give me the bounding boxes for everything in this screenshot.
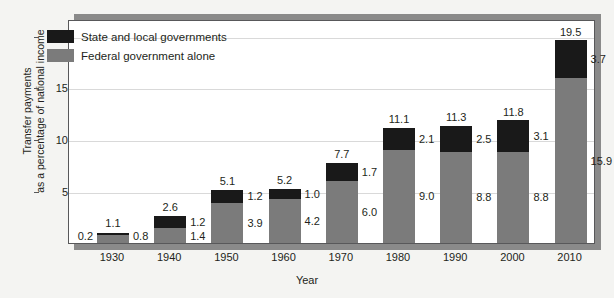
bar-group: 19.53.715.9 xyxy=(555,41,587,243)
bar-value-label-federal: 8.8 xyxy=(472,192,491,203)
y-tick-mark xyxy=(34,140,39,141)
bar-group: 11.32.58.8 xyxy=(440,126,472,243)
bar-group: 5.11.23.9 xyxy=(211,190,243,243)
bar-segment-state-local xyxy=(97,233,129,235)
legend-item: Federal government alone xyxy=(47,47,227,64)
chart-legend: State and local governmentsFederal gover… xyxy=(47,28,227,66)
bar-segment-state-local xyxy=(269,189,301,199)
bar-value-label-state-local: 1.2 xyxy=(243,191,262,202)
bar-total-label: 5.2 xyxy=(269,175,301,186)
x-tick-label: 2000 xyxy=(484,252,540,263)
bar-group: 11.12.19.0 xyxy=(383,128,415,243)
bar-segment-federal xyxy=(211,203,243,243)
legend-label: Federal government alone xyxy=(81,50,215,62)
bar-value-label-federal: 9.0 xyxy=(415,191,434,202)
y-tick-label: 5 xyxy=(42,187,68,198)
bar-value-label-federal: 3.9 xyxy=(243,218,262,229)
legend-swatch-icon xyxy=(47,49,74,62)
bar-value-label-federal: 6.0 xyxy=(358,207,377,218)
bar-value-label-federal: 8.8 xyxy=(529,192,548,203)
bar-value-label-state-local: 3.7 xyxy=(587,54,606,65)
x-tick-label: 1960 xyxy=(256,252,312,263)
legend-item: State and local governments xyxy=(47,28,227,45)
y-tick-mark xyxy=(34,37,39,38)
bar-segment-federal xyxy=(326,181,358,243)
bar-group: 1.10.20.8 xyxy=(97,232,129,243)
x-tick-label: 1990 xyxy=(427,252,483,263)
bar-total-label: 19.5 xyxy=(555,27,587,38)
bar-group: 5.21.04.2 xyxy=(269,189,301,243)
bar-segment-state-local xyxy=(383,128,415,150)
bar-total-label: 7.7 xyxy=(326,149,358,160)
bar-value-label-federal: 0.8 xyxy=(129,231,148,242)
bar-total-label: 11.3 xyxy=(440,112,472,123)
bar-total-label: 2.6 xyxy=(154,202,186,213)
y-axis-title-line1: Transfer payments xyxy=(21,67,33,154)
chart-figure: Transfer payments as a percentage of nat… xyxy=(0,0,614,298)
bar-value-label-federal: 1.4 xyxy=(186,231,205,242)
x-axis-title: Year xyxy=(0,274,614,286)
y-tick-label: 15 xyxy=(42,83,68,94)
bar-total-label: 11.8 xyxy=(497,107,529,118)
legend-label: State and local governments xyxy=(81,31,227,43)
bar-segment-state-local xyxy=(211,190,243,202)
x-tick-label: 1970 xyxy=(313,252,369,263)
bar-segment-federal xyxy=(440,152,472,243)
bar-segment-federal xyxy=(154,228,186,243)
bar-value-label-state-local: 1.2 xyxy=(186,217,205,228)
x-tick-label: 1980 xyxy=(370,252,426,263)
bar-segment-federal xyxy=(555,78,587,243)
y-tick-mark xyxy=(34,88,39,89)
bar-segment-state-local xyxy=(497,120,529,152)
gridline xyxy=(69,89,594,90)
bar-value-label-federal: 4.2 xyxy=(301,216,320,227)
x-tick-label: 2010 xyxy=(542,252,598,263)
bar-group: 11.83.18.8 xyxy=(497,121,529,243)
bar-segment-state-local xyxy=(326,163,358,181)
bar-value-label-state-local: 0.2 xyxy=(78,231,97,242)
bar-total-label: 5.1 xyxy=(211,176,243,187)
x-tick-label: 1930 xyxy=(84,252,140,263)
bar-value-label-state-local: 2.5 xyxy=(472,134,491,145)
bar-total-label: 11.1 xyxy=(383,114,415,125)
bar-value-label-state-local: 2.1 xyxy=(415,134,434,145)
y-tick-mark xyxy=(34,192,39,193)
bar-value-label-state-local: 1.7 xyxy=(358,167,377,178)
bar-segment-state-local xyxy=(555,40,587,78)
bar-segment-state-local xyxy=(440,126,472,152)
legend-swatch-icon xyxy=(47,30,74,43)
bar-value-label-state-local: 3.1 xyxy=(529,131,548,142)
bar-group: 7.71.76.0 xyxy=(326,163,358,243)
bar-segment-federal xyxy=(269,199,301,243)
bar-value-label-federal: 15.9 xyxy=(587,156,612,167)
bar-segment-federal xyxy=(497,152,529,243)
x-tick-label: 1950 xyxy=(198,252,254,263)
bar-group: 2.61.21.4 xyxy=(154,216,186,243)
bar-total-label: 1.1 xyxy=(97,218,129,229)
bar-segment-federal xyxy=(97,235,129,243)
bar-value-label-state-local: 1.0 xyxy=(301,189,320,200)
x-tick-label: 1940 xyxy=(141,252,197,263)
bar-segment-state-local xyxy=(154,216,186,228)
y-tick-label: 10 xyxy=(42,135,68,146)
bar-segment-federal xyxy=(383,150,415,243)
